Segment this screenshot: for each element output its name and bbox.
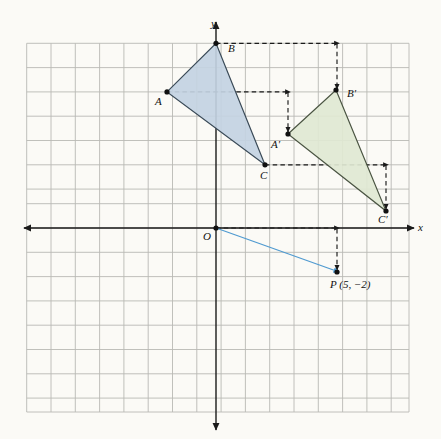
label-vertex-c-prime: C′ (378, 214, 388, 225)
vertex-dot-b-prime (333, 87, 338, 92)
label-axis-y: y (211, 18, 216, 29)
vertex-dot-b (213, 41, 218, 46)
label-vertex-b-prime: B′ (347, 88, 356, 99)
label-origin: O (203, 231, 211, 242)
vertex-dot-c (262, 162, 267, 167)
label-vertex-a: A (155, 96, 162, 107)
vertex-dot-origin (213, 225, 218, 230)
vertex-dot-a (164, 89, 169, 94)
label-vertex-b: B (228, 43, 235, 54)
coordinate-plane-figure: y x O A B C A′ B′ C′ P (5, −2) (0, 0, 441, 439)
label-vertex-c: C (260, 170, 267, 181)
label-vertex-a-prime: A′ (271, 139, 280, 150)
vertex-dot-p (334, 269, 339, 274)
triangle-a-prime-b-prime-c-prime (288, 90, 386, 211)
figure-svg (0, 0, 441, 439)
vector-op (216, 228, 339, 272)
vertex-dot-a-prime (285, 131, 290, 136)
label-point-p: P (5, −2) (330, 279, 371, 290)
label-axis-x: x (418, 222, 423, 233)
